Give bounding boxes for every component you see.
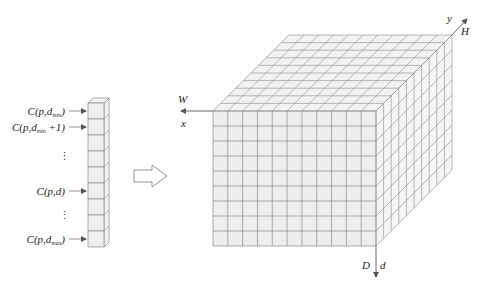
column-cell xyxy=(88,183,104,199)
column-cell xyxy=(88,199,104,215)
axis-depth: D d xyxy=(361,246,386,277)
column-cell xyxy=(88,151,104,167)
cost-label: C(p,dmin) xyxy=(28,105,86,118)
cost-label: C(p,d) xyxy=(37,185,86,198)
svg-text:⋮: ⋮ xyxy=(59,209,70,221)
cost-label: ⋮ xyxy=(59,150,70,162)
column-cell xyxy=(88,135,104,151)
axis-var-x: x xyxy=(180,117,186,129)
axis-height: y H xyxy=(446,12,470,37)
axis-var-y: y xyxy=(446,12,452,24)
axis-width: W x xyxy=(178,93,213,129)
column-cell xyxy=(88,103,104,119)
cost-label: C(p,dmax) xyxy=(27,233,86,246)
axis-label-D: D xyxy=(361,259,370,271)
column-cell xyxy=(88,167,104,183)
cost-column-labels: C(p,dmin)C(p,dmin +1)⋮C(p,d)⋮C(p,dmax) xyxy=(12,105,86,246)
cost-column xyxy=(88,98,109,247)
svg-text:C(p,dmin +1): C(p,dmin +1) xyxy=(12,121,65,134)
svg-text:C(p,dmax): C(p,dmax) xyxy=(27,233,66,246)
column-cell xyxy=(88,119,104,135)
axis-var-d: d xyxy=(380,259,386,271)
cost-label: C(p,dmin +1) xyxy=(12,121,86,134)
transition-arrow-icon xyxy=(134,165,167,187)
volume-front-face xyxy=(213,111,376,246)
column-cell xyxy=(88,231,104,247)
svg-text:C(p,d): C(p,d) xyxy=(37,185,66,198)
axis-label-H: H xyxy=(460,25,470,37)
cost-label: ⋮ xyxy=(59,209,70,221)
column-cell xyxy=(88,215,104,231)
svg-text:C(p,dmin): C(p,dmin) xyxy=(28,105,66,118)
svg-text:⋮: ⋮ xyxy=(59,150,70,162)
axis-label-W: W xyxy=(178,93,188,105)
cost-volume-cube xyxy=(213,35,452,246)
cost-volume-diagram: C(p,dmin)C(p,dmin +1)⋮C(p,d)⋮C(p,dmax) W… xyxy=(0,0,484,289)
